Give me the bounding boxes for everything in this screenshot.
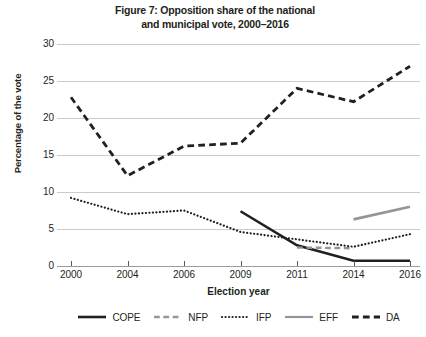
figure-container: Figure 7: Opposition share of the nation… [0,0,426,337]
y-axis-tick-labels: 051015202530 [26,44,54,266]
y-tick-label: 30 [30,39,54,49]
chart-title-line-1: Figure 7: Opposition share of the nation… [60,3,370,17]
series-line-eff [354,207,411,220]
y-tick-label: 10 [30,187,54,197]
legend-swatch-ifp-icon [221,312,251,322]
x-tick-mark [410,261,411,266]
legend-label: COPE [112,312,140,323]
legend-label: DA [386,312,400,323]
series-line-cope [241,211,411,261]
y-tick-label: 15 [30,150,54,160]
x-tick-label: 2004 [108,269,148,280]
legend-swatch-da-icon [351,312,381,322]
chart-legend: COPENFPIFPEFFDA [57,308,420,326]
x-tick-mark [241,261,242,266]
series-layer [57,44,420,266]
x-axis-tick-labels: 2000200420062009201120142016 [57,269,420,283]
chart-title: Figure 7: Opposition share of the nation… [60,3,370,31]
x-tick-label: 2006 [164,269,204,280]
y-tick-label: 20 [30,113,54,123]
legend-swatch-eff-icon [284,312,314,322]
legend-item-da[interactable]: DA [351,312,400,323]
x-tick-label: 2016 [390,269,426,280]
x-tick-mark [71,261,72,266]
legend-label: NFP [188,312,208,323]
x-tick-mark [297,261,298,266]
x-tick-label: 2000 [51,269,91,280]
x-axis-tick-marks [57,261,420,267]
plot-area [57,44,420,266]
x-tick-mark [354,261,355,266]
x-tick-label: 2009 [221,269,261,280]
legend-label: EFF [319,312,338,323]
x-tick-label: 2014 [334,269,374,280]
series-line-ifp [71,198,410,247]
y-axis-title: Percentage of the vote [12,34,23,214]
x-tick-label: 2011 [277,269,317,280]
x-tick-mark [128,261,129,266]
legend-item-cope[interactable]: COPE [77,312,140,323]
x-tick-mark [184,261,185,266]
legend-item-ifp[interactable]: IFP [221,312,271,323]
legend-swatch-nfp-icon [153,312,183,322]
legend-label: IFP [256,312,271,323]
legend-item-eff[interactable]: EFF [284,312,338,323]
x-axis-title: Election year [57,286,420,297]
y-tick-label: 25 [30,76,54,86]
legend-swatch-cope-icon [77,312,107,322]
chart-title-line-2: and municipal vote, 2000–2016 [60,17,370,31]
legend-item-nfp[interactable]: NFP [153,312,208,323]
y-tick-label: 5 [30,224,54,234]
series-line-da [71,66,410,176]
